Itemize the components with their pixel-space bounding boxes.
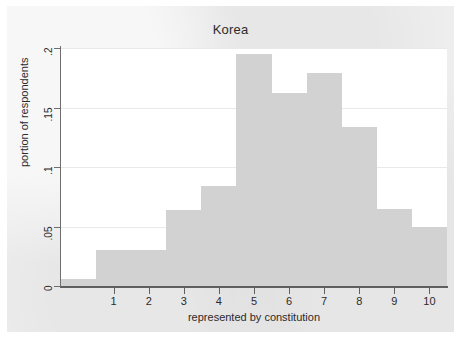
gridline <box>61 48 447 49</box>
y-axis-tick <box>54 227 61 228</box>
y-axis-tick-label: .15 <box>43 107 54 141</box>
y-axis-tick <box>54 108 61 109</box>
histogram-bar <box>201 186 236 286</box>
y-axis-tick-label: .1 <box>43 167 54 201</box>
x-axis-tick <box>429 288 430 294</box>
x-axis-tick <box>114 288 115 294</box>
y-axis-tick <box>54 48 61 49</box>
x-axis-tick-label: 8 <box>347 295 371 307</box>
x-axis-tick-label: 10 <box>417 295 441 307</box>
histogram-bar <box>166 210 201 286</box>
x-axis-tick <box>289 288 290 294</box>
histogram-bar <box>131 250 166 286</box>
y-axis-tick <box>54 167 61 168</box>
x-axis-title: represented by constitution <box>61 311 447 323</box>
x-axis-tick <box>219 288 220 294</box>
x-axis-tick <box>184 288 185 294</box>
chart-title: Korea <box>0 22 461 37</box>
histogram-bar <box>342 127 377 286</box>
x-axis-tick-label: 2 <box>137 295 161 307</box>
histogram-bar <box>272 93 307 286</box>
y-axis-tick-label: 0 <box>43 286 54 320</box>
y-axis-tick-label: .05 <box>43 226 54 260</box>
x-axis-tick <box>149 288 150 294</box>
x-axis-tick <box>254 288 255 294</box>
x-axis-tick <box>394 288 395 294</box>
x-axis-tick <box>324 288 325 294</box>
histogram-bar <box>96 250 131 286</box>
x-axis-tick-label: 1 <box>102 295 126 307</box>
histogram-bar <box>412 227 447 287</box>
y-axis-title: portion of respondents <box>18 58 30 167</box>
histogram-bar <box>307 73 342 286</box>
x-axis-tick-label: 5 <box>242 295 266 307</box>
x-axis-tick-label: 9 <box>382 295 406 307</box>
histogram-bar <box>61 279 96 286</box>
y-axis-tick-label: .2 <box>43 48 54 82</box>
x-axis-tick-label: 6 <box>277 295 301 307</box>
x-axis-tick-label: 3 <box>172 295 196 307</box>
x-axis-tick-label: 7 <box>312 295 336 307</box>
x-axis-tick-label: 4 <box>207 295 231 307</box>
y-axis-tick <box>54 286 61 287</box>
chart-figure: Korea 0.05.1.15.2 12345678910 represente… <box>0 0 461 338</box>
x-axis-tick <box>359 288 360 294</box>
histogram-bar <box>377 209 412 286</box>
plot-area <box>61 48 447 286</box>
histogram-bar <box>236 54 271 286</box>
